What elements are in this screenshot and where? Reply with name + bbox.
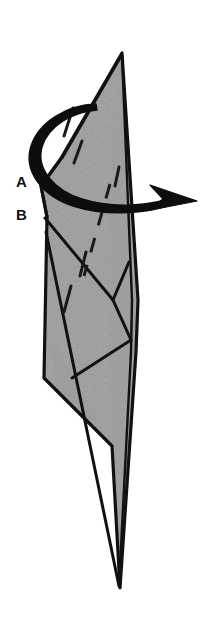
origami-illustration — [0, 0, 212, 618]
origami-diagram: A B — [0, 0, 212, 618]
vertex-label-a: A — [16, 174, 27, 189]
vertex-label-b: B — [16, 207, 27, 222]
rotate-arrow-head — [146, 185, 197, 211]
